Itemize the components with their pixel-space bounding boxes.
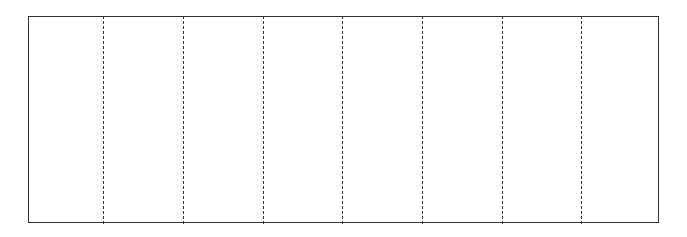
fold-line-7: [581, 16, 582, 224]
fold-line-5: [422, 16, 423, 224]
fold-line-2: [183, 16, 184, 224]
fold-line-1: [103, 16, 104, 224]
outer-rectangle: [28, 16, 659, 223]
fold-line-3: [263, 16, 264, 224]
fold-line-4: [342, 16, 343, 224]
fold-line-6: [502, 16, 503, 224]
